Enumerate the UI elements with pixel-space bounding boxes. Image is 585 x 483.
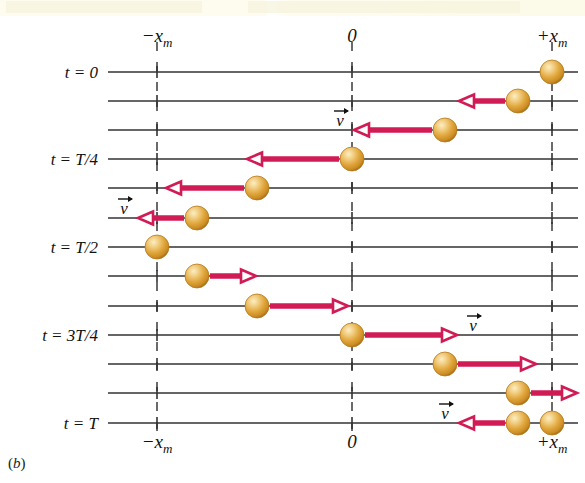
time-label-3: t = 3T/4	[42, 326, 98, 345]
block-sphere-row-5	[185, 206, 209, 230]
shm-figure: −xm0+xm −xm0+xm t = 0t = T/4t = T/2t = 3…	[0, 0, 585, 483]
block-sphere-row-0	[540, 60, 564, 84]
velocity-overbar-arrowhead-row-2	[344, 108, 349, 114]
velocity-vector-label-row-13: v	[441, 404, 449, 423]
time-label-0: t = 0	[65, 63, 99, 82]
velocity-arrow-head-row-2	[354, 124, 369, 137]
block-sphere-row-9	[340, 323, 364, 347]
velocity-symbol-group: vvvv	[118, 108, 482, 423]
block-sphere-row-4	[245, 176, 269, 200]
top-axis-label-1: 0	[347, 25, 357, 46]
panel-label: (b)	[8, 455, 26, 472]
time-label-4: t = T	[64, 414, 100, 433]
velocity-vector-label-row-2: v	[336, 111, 344, 130]
panel-label-letter: b	[13, 455, 21, 471]
top-axis-labels: −xm0+xm	[142, 25, 568, 50]
block-sphere-row-8	[245, 294, 269, 318]
block-sphere-row-10	[433, 352, 457, 376]
time-label-2: t = T/2	[51, 238, 99, 257]
velocity-arrow-head-row-11	[562, 387, 577, 400]
velocity-overbar-arrowhead-row-13	[449, 401, 454, 407]
velocity-arrow-head-row-10	[521, 358, 536, 371]
block-sphere-row-12	[540, 411, 564, 435]
velocity-arrow-head-row-8	[333, 300, 348, 313]
bottom-axis-labels: −xm0+xm	[142, 431, 568, 456]
block-sphere-row-11	[506, 381, 530, 405]
bottom-axis-label-0: −xm	[142, 431, 173, 456]
velocity-arrow-head-row-9	[442, 329, 457, 342]
time-labels-group: t = 0t = T/4t = T/2t = 3T/4t = T	[42, 63, 99, 433]
velocity-arrow-head-row-7	[241, 270, 256, 283]
time-label-1: t = T/4	[51, 150, 99, 169]
bottom-axis-label-1: 0	[347, 431, 357, 452]
velocity-arrow-head-row-5	[138, 212, 153, 225]
block-sphere-row-1	[506, 89, 530, 113]
velocity-arrow-head-row-4	[166, 182, 181, 195]
velocity-vector-label-row-5: v	[120, 199, 128, 218]
velocity-arrows-group	[138, 95, 577, 430]
velocity-arrow-head-row-1	[459, 95, 474, 108]
block-sphere-row-13	[506, 411, 530, 435]
block-sphere-row-7	[185, 264, 209, 288]
block-sphere-row-2	[433, 118, 457, 142]
shm-diagram-canvas: −xm0+xm −xm0+xm t = 0t = T/4t = T/2t = 3…	[0, 0, 585, 483]
velocity-overbar-arrowhead-row-5	[128, 196, 133, 202]
panel-label-close: )	[21, 455, 26, 471]
velocity-overbar-arrowhead-row-9	[477, 313, 482, 319]
velocity-arrow-head-row-13	[459, 417, 474, 430]
block-sphere-row-3	[340, 147, 364, 171]
block-sphere-row-6	[145, 235, 169, 259]
velocity-arrow-head-row-3	[247, 153, 262, 166]
velocity-vector-label-row-9: v	[469, 316, 477, 335]
